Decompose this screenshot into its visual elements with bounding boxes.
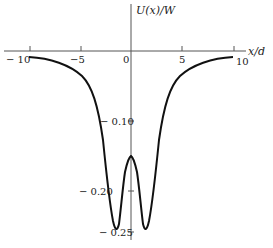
x-tick-label-m10: − 10 bbox=[6, 54, 30, 65]
x-tick-label-5: 5 bbox=[179, 54, 185, 65]
chart: U(x)/W x/d − 10 −5 0 5 10 − 0.10 − 0.20 … bbox=[0, 0, 273, 248]
x-tick-label-0: 0 bbox=[123, 54, 129, 65]
x-tick-label-m5: −5 bbox=[70, 54, 85, 65]
y-tick-label-010: − 0.10 bbox=[100, 116, 134, 127]
potential-plot: U(x)/W x/d − 10 −5 0 5 10 − 0.10 − 0.20 … bbox=[0, 0, 273, 248]
x-tick-label-10: 10 bbox=[236, 56, 249, 67]
x-ticks bbox=[30, 46, 234, 51]
x-axis-label: x/d bbox=[248, 45, 265, 58]
y-axis-label: U(x)/W bbox=[136, 4, 177, 17]
